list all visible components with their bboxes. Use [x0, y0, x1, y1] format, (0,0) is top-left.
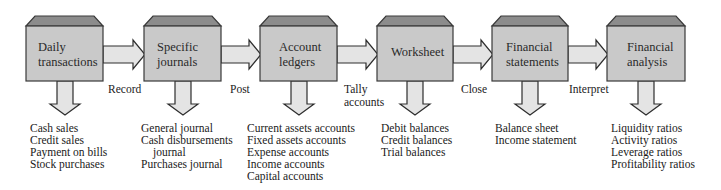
connector-label-line: Close [461, 83, 487, 96]
arrow-down-icon [50, 81, 80, 115]
list-item: Capital accounts [247, 170, 355, 182]
list-item: Payment on bills [30, 146, 107, 158]
stage-title-line: Specific [157, 40, 198, 55]
arrow-right-icon [337, 40, 378, 69]
connector-label-line: accounts [344, 96, 384, 109]
list-item: Stock purchases [30, 158, 107, 170]
stage-items-worksheet: Debit balances Credit balances Trial bal… [381, 122, 452, 158]
stage-items-financial-statements: Balance sheet Income statement [495, 122, 576, 146]
arrow-down-icon [515, 81, 545, 115]
stage-title-line: Account [279, 40, 321, 55]
arrow-right-icon [453, 40, 493, 69]
connector-label-line: Record [108, 83, 141, 96]
stage-title-daily-transactions: Daily transactions [38, 40, 98, 70]
connector-label-post: Post [230, 83, 250, 96]
list-item: Leverage ratios [611, 146, 695, 158]
list-item: Activity ratios [611, 134, 695, 146]
list-item: Current assets accounts [247, 122, 355, 134]
stage-title-line: transactions [38, 55, 98, 70]
stage-title-specific-journals: Specific journals [157, 40, 198, 70]
list-item: Credit balances [381, 134, 452, 146]
stage-title-line: analysis [627, 55, 674, 70]
stage-title-financial-statements: Financial statements [506, 40, 559, 70]
connector-label-line: Interpret [569, 83, 609, 96]
connector-label-close: Close [461, 83, 487, 96]
list-item: Credit sales [30, 134, 107, 146]
connector-label-record: Record [108, 83, 141, 96]
stage-title-line: ledgers [279, 55, 321, 70]
stage-title-worksheet: Worksheet [391, 45, 444, 60]
connector-label-interpret: Interpret [569, 83, 609, 96]
accounting-cycle-diagram: Daily transactions Specific journals Acc… [0, 0, 721, 190]
connector-label-line: Post [230, 83, 250, 96]
stage-items-account-ledgers: Current assets accounts Fixed assets acc… [247, 122, 355, 182]
arrow-down-icon [631, 81, 661, 115]
list-item: Profitability ratios [611, 158, 695, 170]
arrow-down-icon [168, 81, 198, 115]
list-item: Liquidity ratios [611, 122, 695, 134]
list-item: General journal [141, 122, 233, 134]
list-item: journal [141, 146, 233, 158]
list-item: Income accounts [247, 158, 355, 170]
list-item: Balance sheet [495, 122, 576, 134]
list-item: Cash disbursements [141, 134, 233, 146]
list-item: Cash sales [30, 122, 107, 134]
list-item: Trial balances [381, 146, 452, 158]
connector-label-tally-accounts: Tally accounts [344, 83, 384, 109]
stage-title-line: Daily [38, 40, 98, 55]
arrow-down-icon [400, 81, 430, 115]
arrow-down-icon [284, 81, 314, 115]
list-item: Purchases journal [141, 158, 233, 170]
stage-title-line: Worksheet [391, 45, 444, 60]
stage-title-line: Financial [627, 40, 674, 55]
list-item: Expense accounts [247, 146, 355, 158]
stage-title-line: journals [157, 55, 198, 70]
stage-title-account-ledgers: Account ledgers [279, 40, 321, 70]
stage-title-line: statements [506, 55, 559, 70]
list-item: Fixed assets accounts [247, 134, 355, 146]
connector-label-line: Tally [344, 83, 384, 96]
list-item: Income statement [495, 134, 576, 146]
stage-items-daily-transactions: Cash sales Credit sales Payment on bills… [30, 122, 107, 170]
stage-items-specific-journals: General journal Cash disbursements journ… [141, 122, 233, 170]
list-item: Debit balances [381, 122, 452, 134]
stage-title-line: Financial [506, 40, 559, 55]
stage-items-financial-analysis: Liquidity ratios Activity ratios Leverag… [611, 122, 695, 170]
arrow-right-icon [221, 40, 261, 69]
stage-title-financial-analysis: Financial analysis [627, 40, 674, 70]
arrow-right-icon [568, 40, 608, 69]
arrow-right-icon [103, 40, 145, 69]
